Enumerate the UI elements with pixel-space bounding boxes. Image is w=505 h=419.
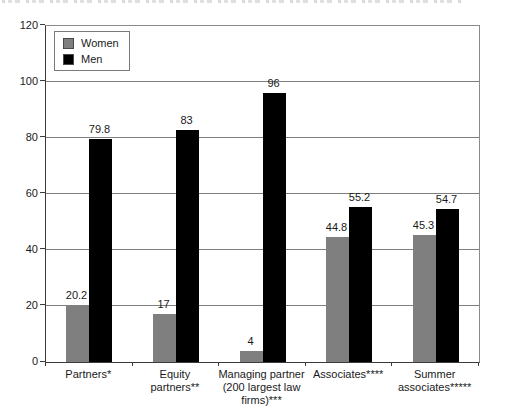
x-axis-tick-mark [132,362,133,366]
legend-label-men: Men [81,53,102,65]
x-axis-tick-mark [391,362,392,366]
value-label-women-5: 45.3 [399,219,449,231]
legend-label-women: Women [81,37,119,49]
y-axis-tick-label-60: 60 [6,187,38,199]
value-label-men-3: 96 [249,77,299,89]
legend: WomenMen [54,31,130,71]
y-axis-tick-mark [40,80,45,81]
y-axis-tick-label-100: 100 [6,75,38,87]
value-label-women-2: 17 [139,298,189,310]
x-axis-tick-mark [305,362,306,366]
y-axis-tick-mark [40,304,45,305]
value-label-women-3: 4 [226,335,276,347]
y-axis-tick-mark [40,248,45,249]
y-axis-tick-label-120: 120 [6,19,38,31]
bar-men-3 [263,93,286,362]
y-axis-tick-label-0: 0 [6,355,38,367]
bar-women-2 [153,314,176,362]
plot-area: WomenMen [45,25,480,363]
bar-men-2 [176,130,199,362]
value-label-women-1: 20.2 [52,289,102,301]
value-label-men-5: 54.7 [422,193,472,205]
bar-women-3 [240,351,263,362]
x-axis-tick-mark [45,362,46,366]
value-label-men-4: 55.2 [335,191,385,203]
x-axis-tick-mark [218,362,219,366]
legend-entry-women: Women [63,37,119,49]
clipped-caption-fragment [2,0,464,3]
bar-men-5 [436,209,459,362]
category-label-5: Summerassociates***** [375,368,495,394]
y-axis-tick-mark [40,24,45,25]
bar-men-1 [89,139,112,362]
legend-swatch-men [63,54,74,65]
legend-swatch-women [63,38,74,49]
y-axis-tick-mark [40,136,45,137]
value-label-women-4: 44.8 [312,221,362,233]
y-axis-tick-label-80: 80 [6,131,38,143]
bar-women-1 [66,305,89,362]
bar-chart: WomenMen 02040608010012020.279.8Partners… [0,0,505,419]
x-axis-tick-mark [478,362,479,366]
bar-women-4 [326,237,349,362]
y-axis-tick-label-40: 40 [6,243,38,255]
bar-women-5 [413,235,436,362]
y-axis-tick-mark [40,192,45,193]
legend-entry-men: Men [63,53,119,65]
value-label-men-1: 79.8 [75,123,125,135]
value-label-men-2: 83 [162,114,212,126]
y-axis-tick-label-20: 20 [6,299,38,311]
